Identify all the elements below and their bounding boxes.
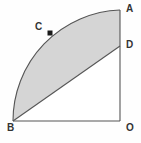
vertex-label-c: C [35, 22, 42, 32]
vertex-label-o: O [126, 123, 134, 133]
vertex-label-d: D [126, 40, 133, 50]
vertex-label-a: A [126, 4, 133, 14]
point-c-marker [48, 31, 53, 36]
geometry-figure: A D O B C [0, 0, 141, 143]
geometry-canvas [0, 0, 141, 143]
vertex-label-b: B [7, 123, 14, 133]
